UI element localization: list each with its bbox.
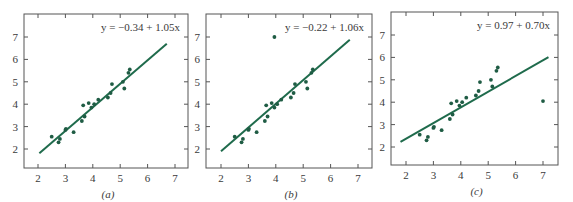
y-tick-label: 3 — [380, 119, 386, 131]
data-point — [58, 137, 62, 141]
y-tick-label: 6 — [380, 51, 386, 63]
data-point — [90, 106, 94, 110]
data-point — [255, 130, 259, 134]
data-point — [440, 128, 444, 132]
data-point — [87, 101, 91, 105]
y-tick-label: 7 — [195, 31, 201, 43]
x-tick-label: 6 — [513, 169, 519, 181]
y-tick-label: 4 — [13, 98, 19, 110]
data-point — [50, 135, 54, 139]
regression-equation: y = −0.34 + 1.05x — [101, 21, 181, 33]
data-point — [455, 99, 459, 103]
panel-label: (a) — [102, 188, 115, 201]
data-point — [279, 98, 283, 102]
x-tick-label: 7 — [172, 172, 178, 184]
data-point — [273, 35, 277, 39]
data-point — [477, 89, 481, 93]
x-tick-label: 7 — [355, 172, 361, 184]
figure: 234567234567y = −0.34 + 1.05x(a) 2345672… — [0, 0, 573, 202]
regression-line — [401, 57, 549, 142]
y-tick-label: 3 — [195, 121, 201, 133]
data-point — [478, 80, 482, 84]
x-tick-label: 4 — [90, 172, 96, 184]
data-point — [109, 91, 113, 95]
data-point — [474, 94, 478, 98]
data-point — [490, 85, 494, 89]
panel-label: (c) — [470, 185, 483, 198]
x-tick-label: 6 — [328, 172, 334, 184]
y-tick-label: 5 — [380, 74, 386, 86]
data-point — [426, 135, 430, 139]
y-tick-label: 7 — [380, 29, 386, 41]
data-point — [264, 103, 268, 107]
data-point — [121, 80, 125, 84]
x-tick-label: 3 — [63, 172, 69, 184]
data-point — [247, 127, 251, 131]
data-point — [292, 91, 296, 95]
x-tick-label: 5 — [485, 169, 491, 181]
data-point — [495, 69, 499, 73]
data-point — [458, 104, 462, 108]
data-point — [266, 115, 270, 119]
data-point — [72, 130, 76, 134]
data-point — [464, 96, 468, 100]
data-point — [233, 135, 237, 139]
x-tick-label: 4 — [273, 172, 279, 184]
regression-line — [39, 44, 166, 153]
data-point — [496, 66, 500, 70]
data-point — [275, 102, 279, 106]
data-point — [449, 101, 453, 105]
data-point — [81, 103, 85, 107]
x-tick-label: 3 — [246, 172, 252, 184]
x-tick-label: 3 — [431, 169, 437, 181]
data-point — [80, 119, 84, 123]
data-point — [83, 115, 87, 119]
data-point — [57, 140, 61, 144]
data-point — [127, 71, 131, 75]
data-point — [425, 138, 429, 142]
data-point — [289, 96, 293, 100]
data-point — [432, 125, 436, 129]
data-point — [106, 96, 110, 100]
x-tick-label: 6 — [145, 172, 151, 184]
data-point — [305, 87, 309, 91]
data-point — [418, 133, 422, 137]
panel-b: 234567234567y = −0.22 + 1.06x(b) — [195, 14, 373, 201]
y-tick-label: 2 — [13, 143, 19, 155]
data-point — [96, 98, 100, 102]
y-tick-label: 6 — [13, 53, 19, 65]
regression-line — [221, 40, 350, 152]
x-tick-label: 4 — [458, 169, 464, 181]
regression-equation: y = −0.22 + 1.06x — [285, 21, 365, 33]
y-tick-label: 6 — [195, 53, 201, 65]
panel-a: 234567234567y = −0.34 + 1.05x(a) — [13, 14, 189, 201]
data-point — [64, 127, 68, 131]
x-tick-label: 5 — [117, 172, 123, 184]
x-tick-label: 2 — [403, 169, 409, 181]
data-point — [122, 87, 126, 91]
y-tick-label: 5 — [195, 76, 201, 88]
regression-equation: y = 0.97 + 0.70x — [477, 19, 550, 31]
y-tick-label: 4 — [195, 98, 201, 110]
data-point — [273, 106, 277, 110]
data-point — [293, 82, 297, 86]
data-point — [489, 78, 493, 82]
panel-label: (b) — [285, 188, 298, 201]
x-tick-label: 7 — [540, 169, 546, 181]
y-tick-label: 7 — [13, 31, 19, 43]
data-point — [128, 68, 132, 72]
y-tick-label: 2 — [195, 143, 201, 155]
scatter-panels: 234567234567y = −0.34 + 1.05x(a) 2345672… — [0, 0, 573, 202]
data-point — [240, 140, 244, 144]
x-tick-label: 5 — [300, 172, 306, 184]
data-point — [451, 113, 455, 117]
y-tick-label: 5 — [13, 76, 19, 88]
x-tick-label: 2 — [35, 172, 41, 184]
data-point — [310, 71, 314, 75]
data-point — [92, 102, 96, 106]
y-tick-label: 2 — [380, 141, 386, 153]
y-tick-label: 4 — [380, 96, 386, 108]
data-point — [263, 119, 267, 123]
data-point — [304, 80, 308, 84]
panel-c: 234567234567y = 0.97 + 0.70x(c) — [380, 12, 559, 198]
